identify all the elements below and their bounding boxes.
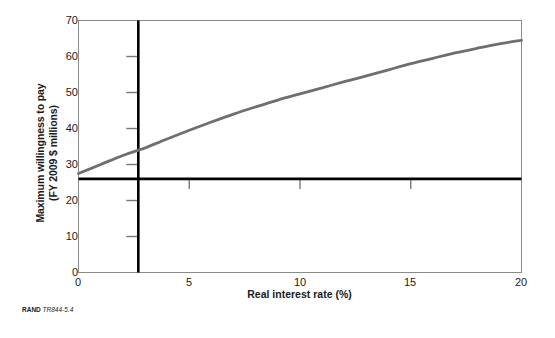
inner-x-tick-marks xyxy=(189,179,411,189)
plot-area xyxy=(0,0,555,338)
inner-y-tick-marks xyxy=(126,57,138,237)
source-organization: RAND xyxy=(22,306,41,313)
willingness-to-pay-curve xyxy=(79,40,522,173)
source-figure-code: TR844-5.4 xyxy=(43,306,74,313)
figure-source-note: RAND TR844-5.4 xyxy=(22,306,73,313)
chart-figure: Maximum willingness to pay (FY 2009 $ mi… xyxy=(0,0,555,338)
